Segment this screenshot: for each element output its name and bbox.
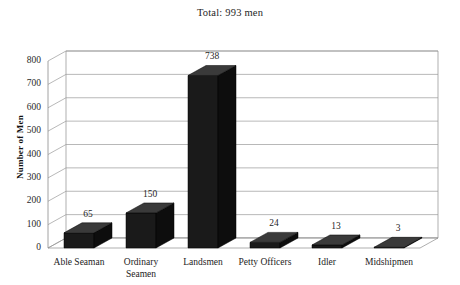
- bar-chart: Total: 993 men Number of Men 01002003004…: [0, 0, 460, 285]
- bar-value-label: 24: [249, 218, 299, 228]
- bar: [188, 65, 236, 248]
- bar-value-label: 150: [125, 189, 175, 199]
- x-axis-category-label: Midshipmen: [353, 257, 425, 269]
- bar-value-label: 65: [63, 209, 113, 219]
- bar: [126, 203, 174, 248]
- plot-area: [0, 0, 460, 285]
- bar-value-label: 738: [187, 51, 237, 61]
- bar-value-label: 13: [311, 221, 361, 231]
- bar-value-label: 3: [373, 223, 423, 233]
